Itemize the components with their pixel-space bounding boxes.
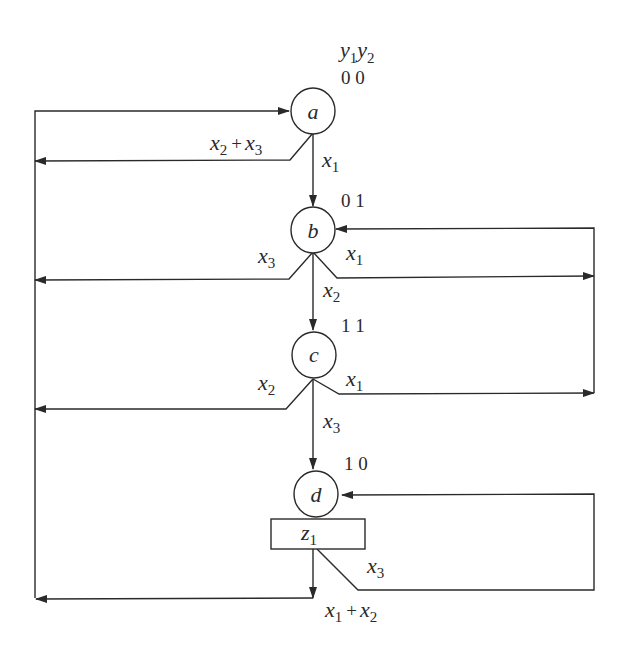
state-code-a: 0 0 xyxy=(341,67,365,88)
state-code-d: 1 0 xyxy=(344,453,368,474)
edge-into-b xyxy=(336,228,594,393)
cond-b-self: x1 xyxy=(345,240,363,268)
state-label-a: a xyxy=(308,99,319,124)
state-label-c: c xyxy=(309,342,319,367)
state-code-b: 0 1 xyxy=(341,190,365,211)
state-label-b: b xyxy=(308,218,319,243)
cond-c-to-b: x1 xyxy=(345,366,363,394)
state-node-c[interactable]: c xyxy=(292,332,336,378)
state-code-c: 1 1 xyxy=(341,315,365,336)
output-box-z1: z1 xyxy=(271,519,365,549)
cond-d-self: x3 xyxy=(366,553,384,581)
svg-text:y1y2: y1y2 xyxy=(338,37,375,66)
cond-d-to-a: x1+x2 xyxy=(324,597,377,625)
state-label-d: d xyxy=(311,482,323,507)
state-diagram: y1y2 0 0 0 1 1 1 1 0 a b c d xyxy=(0,0,625,671)
cond-c-to-d: x3 xyxy=(322,408,340,436)
edge-d-to-a xyxy=(36,598,313,599)
cond-b-to-c: x2 xyxy=(322,277,340,305)
state-node-a[interactable]: a xyxy=(291,88,335,134)
state-node-d[interactable]: d xyxy=(294,471,338,517)
cond-a-to-b: x1 xyxy=(321,147,339,175)
output-header: y1y2 xyxy=(338,37,375,66)
cond-a-self: x2+x3 xyxy=(209,130,262,158)
edge-a-self xyxy=(35,133,313,161)
state-node-b[interactable]: b xyxy=(291,207,335,253)
cond-b-to-a: x3 xyxy=(257,243,275,271)
edge-return-to-a xyxy=(35,111,289,598)
cond-c-to-a: x2 xyxy=(257,370,275,398)
